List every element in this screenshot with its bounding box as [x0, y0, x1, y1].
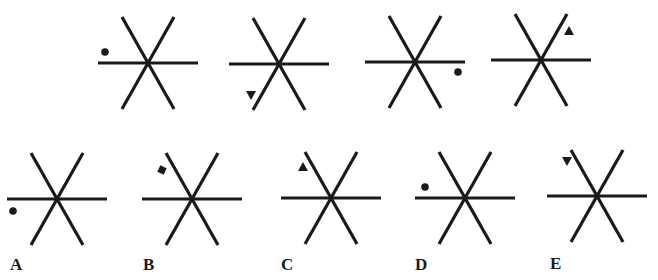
option-figure-D[interactable] — [415, 152, 515, 244]
option-figure-C[interactable] — [281, 152, 381, 244]
triangle-up-marker-icon — [564, 26, 574, 35]
option-label-B[interactable]: B — [143, 255, 154, 275]
dot-marker-icon — [454, 68, 462, 76]
triangle-up-marker-icon — [298, 162, 308, 171]
option-figure-B[interactable] — [142, 153, 242, 245]
option-label-A[interactable]: A — [10, 255, 22, 275]
sequence-figure-seq-1 — [98, 17, 198, 109]
triangle-down-marker-icon — [562, 157, 572, 166]
puzzle-diagram: ABCDE — [0, 0, 658, 280]
triangle-down-marker-icon — [246, 91, 256, 100]
dot-marker-icon — [9, 207, 17, 215]
figure-canvas — [0, 0, 658, 280]
dot-marker-icon — [421, 183, 429, 191]
option-figure-E[interactable] — [547, 150, 647, 242]
option-label-C[interactable]: C — [281, 255, 293, 275]
sequence-figure-seq-3 — [365, 16, 465, 108]
cutoff-instruction-text — [0, 0, 658, 3]
square-marker-icon — [157, 165, 166, 174]
sequence-figure-seq-2 — [229, 18, 329, 110]
sequence-figure-seq-4 — [491, 14, 591, 106]
option-figure-A[interactable] — [7, 153, 107, 245]
option-label-D[interactable]: D — [415, 255, 427, 275]
dot-marker-icon — [101, 48, 109, 56]
option-label-E[interactable]: E — [550, 254, 561, 274]
